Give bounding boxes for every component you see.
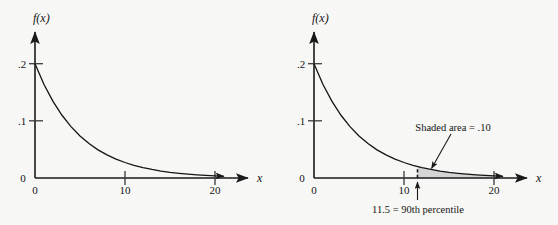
density-curve xyxy=(314,64,503,177)
x-tick-label-10: 10 xyxy=(399,184,411,196)
x-tick-label-20: 20 xyxy=(489,184,501,196)
percentile-annotation: 11.5 = 90th percentile xyxy=(372,204,464,215)
shaded-area-annotation: Shaded area = .10 xyxy=(415,122,490,133)
x-axis-label: x xyxy=(535,171,542,185)
chart-panel-right: f(x) x .2 .1 0 0 10 20 Shaded area = .10… xyxy=(279,0,558,225)
y-axis-label: f(x) xyxy=(312,11,329,25)
figure-container: f(x) x .2 .1 0 0 10 20 xyxy=(0,0,558,225)
x-tick-label-20: 20 xyxy=(210,184,222,196)
x-tick-label-0: 0 xyxy=(32,184,38,196)
x-tick-label-0: 0 xyxy=(311,184,317,196)
shaded-area-leader-line xyxy=(432,134,452,169)
x-axis-label: x xyxy=(256,171,263,185)
y-tick-label-0: 0 xyxy=(299,172,305,184)
y-tick-label-0.1: .1 xyxy=(297,115,305,127)
chart-panel-left: f(x) x .2 .1 0 0 10 20 xyxy=(0,0,279,225)
y-tick-label-0.2: .2 xyxy=(18,58,26,70)
y-tick-label-0.2: .2 xyxy=(297,58,305,70)
y-axis-label: f(x) xyxy=(33,11,50,25)
y-tick-label-0: 0 xyxy=(20,172,26,184)
density-curve xyxy=(35,64,224,177)
y-tick-label-0.1: .1 xyxy=(18,115,26,127)
x-tick-label-10: 10 xyxy=(120,184,132,196)
